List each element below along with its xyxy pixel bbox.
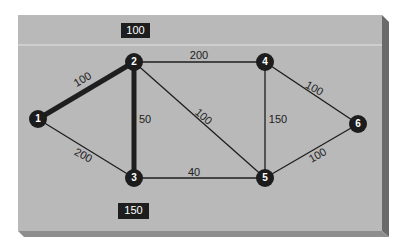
panel-front-face <box>18 15 382 231</box>
edge-weight-label: 50 <box>139 113 151 125</box>
node-6: 6 <box>349 115 367 133</box>
node-4: 4 <box>256 53 274 71</box>
edge-weight-label: 40 <box>188 166 200 178</box>
edge-weight-label: 200 <box>190 49 208 61</box>
node-1: 1 <box>29 110 47 128</box>
node-label: 4 <box>262 56 268 67</box>
badge-label: 100 <box>126 24 144 36</box>
node-label: 3 <box>131 172 137 183</box>
edge-weight-label: 150 <box>269 113 287 125</box>
node-label: 1 <box>35 113 41 124</box>
top-badge: 100 <box>121 23 150 38</box>
node-label: 5 <box>262 172 268 183</box>
graph-diagram: 1002005020010040150100100 123456 100150 <box>0 0 401 249</box>
node-5: 5 <box>256 169 274 187</box>
node-3: 3 <box>125 169 143 187</box>
bottom-badge: 150 <box>118 203 149 219</box>
panel-bottom-face <box>18 231 389 237</box>
badge-label: 150 <box>124 204 142 216</box>
node-label: 2 <box>131 56 137 67</box>
panel-side-face <box>382 15 389 237</box>
node-label: 6 <box>355 118 361 129</box>
node-2: 2 <box>125 53 143 71</box>
